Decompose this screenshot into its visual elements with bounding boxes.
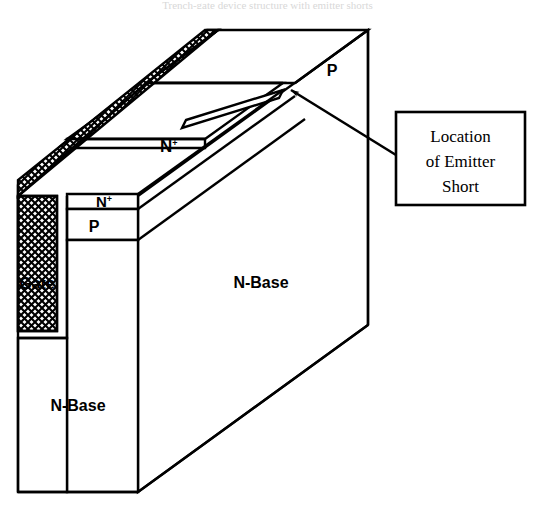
p-front-face <box>67 209 138 240</box>
label-n-plus-top: N+ <box>160 137 178 156</box>
label-n-base-left: N-Base <box>50 397 105 414</box>
label-n-base-right: N-Base <box>233 274 288 291</box>
figure-canvas: Trench-gate device structure with emitte… <box>0 0 535 505</box>
device-structure-diagram: N+ N+ P P Gate N-Base N-Base Location of… <box>0 0 535 505</box>
callout-line-2: of Emitter <box>426 152 496 171</box>
label-gate: Gate <box>19 275 55 292</box>
callout-line-1: Location <box>430 127 491 146</box>
label-p-front: P <box>89 218 100 235</box>
callout-line-3: Short <box>442 177 479 196</box>
cropped-caption-text: Trench-gate device structure with emitte… <box>0 0 535 9</box>
n-base-front-upper <box>67 240 138 492</box>
n-base-left-lower-face <box>18 338 67 492</box>
label-p-back: P <box>327 62 338 79</box>
gate-trench-front-face <box>18 196 57 331</box>
n-plus-stripe-sidewall <box>67 139 205 148</box>
